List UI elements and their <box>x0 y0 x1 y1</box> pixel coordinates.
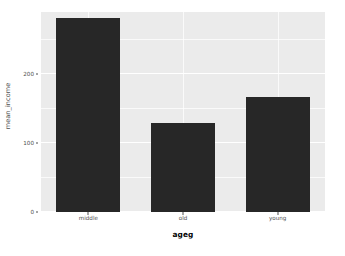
y-tick-label: 100 <box>23 140 34 146</box>
plot-panel <box>41 12 325 212</box>
bar-chart-figure: mean_income 0100200 middleoldyoung ageg <box>0 0 345 256</box>
x-tick-label-old: old <box>179 215 188 221</box>
y-tick-mark <box>36 74 39 75</box>
y-tick-mark <box>36 143 39 144</box>
bar-middle <box>56 18 120 212</box>
x-axis-title: ageg <box>41 230 325 239</box>
x-tick-label-middle: middle <box>79 215 98 221</box>
x-axis-tick-labels: middleoldyoung <box>41 215 325 227</box>
y-axis-tick-labels: 0100200 <box>14 0 38 212</box>
y-tick-mark <box>36 212 39 213</box>
x-tick-label-young: young <box>269 215 286 221</box>
bar-young <box>246 97 310 212</box>
bar-old <box>151 123 215 212</box>
y-tick-label: 0 <box>30 209 34 215</box>
y-axis-title-label: mean_income <box>4 83 12 130</box>
y-tick-label: 200 <box>23 71 34 77</box>
